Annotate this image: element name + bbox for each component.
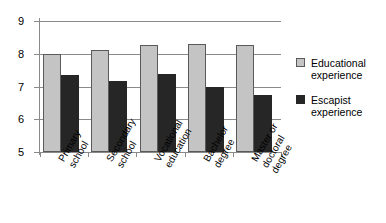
bar	[43, 54, 61, 152]
gridline	[40, 21, 281, 22]
y-tick-mark	[34, 54, 40, 55]
y-tick-mark	[34, 87, 40, 88]
legend-label-line: Educational	[311, 57, 366, 69]
y-tick-label: 6	[18, 114, 24, 125]
y-tick-label: 8	[18, 48, 24, 59]
x-tick-mark	[136, 152, 137, 157]
legend-label: Educationalexperience	[311, 57, 366, 81]
y-tick-label: 7	[18, 81, 24, 92]
x-tick-mark	[40, 152, 41, 157]
bar-chart: 56789 PrimaryschoolSecondaryschoolVocati…	[0, 0, 386, 223]
legend-item[interactable]: Educationalexperience	[296, 57, 384, 81]
legend-swatch-icon	[296, 95, 305, 104]
legend-label-line: experience	[311, 69, 366, 81]
legend-swatch-icon	[296, 58, 305, 67]
legend-label: Escapistexperience	[311, 94, 362, 118]
y-tick-mark	[34, 21, 40, 22]
x-tick-mark	[233, 152, 234, 157]
legend-item[interactable]: Escapistexperience	[296, 94, 384, 118]
y-tick-label: 5	[18, 147, 24, 158]
x-tick-mark	[88, 152, 89, 157]
legend-label-line: Escapist	[311, 94, 362, 106]
y-tick-mark	[34, 119, 40, 120]
legend-label-line: experience	[311, 106, 362, 118]
x-tick-mark	[185, 152, 186, 157]
y-tick-label: 9	[18, 16, 24, 27]
legend: EducationalexperienceEscapistexperience	[296, 57, 384, 131]
bar	[91, 50, 109, 152]
